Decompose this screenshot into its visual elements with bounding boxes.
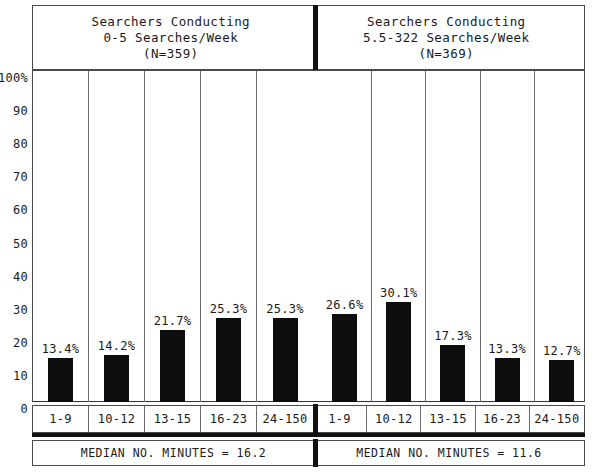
y-axis-tick-90: 90: [13, 105, 28, 117]
panel-header-left: Searchers Conducting 0-5 Searches/Week (…: [33, 6, 309, 69]
grouped-bar-chart: Searchers Conducting 0-5 Searches/Week (…: [0, 0, 605, 472]
category-label-13-15: 13-15: [421, 406, 475, 432]
bar-value-label: 30.1%: [380, 287, 418, 299]
bar-value-label: 17.3%: [434, 330, 472, 342]
category-label-16-23: 16-23: [201, 406, 257, 432]
bar-value-label: 13.3%: [488, 343, 526, 355]
bar-value-label: 26.6%: [326, 299, 364, 311]
y-axis-tick-50: 50: [13, 238, 28, 250]
bar: 13.3%: [495, 358, 520, 402]
bar-column: 13.4%: [33, 71, 89, 402]
category-label-24-150: 24-150: [530, 406, 584, 432]
axis-baseline-rule: [32, 433, 585, 437]
category-label-10-12: 10-12: [89, 406, 145, 432]
bar-column: 25.3%: [201, 71, 257, 402]
median-footer-right: MEDIAN NO. MINUTES = 11.6: [314, 441, 584, 465]
y-axis-tick-80: 80: [13, 138, 28, 150]
category-label-13-15: 13-15: [145, 406, 201, 432]
y-axis-tick-0: 0: [20, 403, 28, 415]
panel-header-right-sample-size: (N=369): [419, 46, 474, 62]
y-axis-tick-40: 40: [13, 271, 28, 283]
bar-column: 13.3%: [481, 71, 535, 402]
bar-panel-left: 13.4%14.2%21.7%25.3%25.3%: [33, 71, 313, 402]
category-label-16-23: 16-23: [476, 406, 530, 432]
bar: 21.7%: [160, 330, 185, 402]
y-axis-tick-20: 20: [13, 337, 28, 349]
y-axis-tick-100: 100%: [0, 72, 28, 84]
panel-headers: Searchers Conducting 0-5 Searches/Week (…: [32, 5, 585, 70]
bar-value-label: 21.7%: [154, 315, 192, 327]
median-footer-divider: [313, 439, 318, 467]
y-axis-tick-30: 30: [13, 304, 28, 316]
bar-value-label: 14.2%: [98, 340, 136, 352]
panel-header-right: Searchers Conducting 5.5-322 Searches/We…: [309, 6, 585, 69]
bar-column: 30.1%: [372, 71, 426, 402]
y-axis-tick-70: 70: [13, 171, 28, 183]
median-footer-left: MEDIAN NO. MINUTES = 16.2: [33, 441, 314, 465]
panel-header-left-sample-size: (N=359): [143, 46, 198, 62]
category-axis-divider: [313, 404, 318, 434]
y-axis-tick-10: 10: [13, 370, 28, 382]
bar-column: 12.7%: [535, 71, 589, 402]
bar: 13.4%: [48, 358, 73, 402]
bar-column: 21.7%: [145, 71, 201, 402]
bar-column: 25.3%: [257, 71, 313, 402]
bar-value-label: 25.3%: [210, 303, 248, 315]
bar: 12.7%: [549, 360, 574, 402]
category-axis: 1-910-1213-1516-2324-150 1-910-1213-1516…: [32, 405, 585, 433]
category-label-1-9: 1-9: [33, 406, 89, 432]
y-axis-tick-60: 60: [13, 204, 28, 216]
panel-header-left-line1: Searchers Conducting: [91, 14, 250, 30]
category-label-24-150: 24-150: [257, 406, 313, 432]
bar: 17.3%: [440, 345, 465, 402]
panel-header-left-line2: 0-5 Searches/Week: [103, 30, 238, 46]
category-axis-right: 1-910-1213-1516-2324-150: [313, 406, 584, 432]
bar-panel-right: 26.6%30.1%17.3%13.3%12.7%: [318, 71, 589, 402]
header-panel-divider: [313, 5, 318, 71]
bar: 30.1%: [386, 302, 411, 402]
y-axis-labels: 100%9080706050403020100: [0, 70, 30, 402]
bar-value-label: 12.7%: [543, 345, 581, 357]
median-footer: MEDIAN NO. MINUTES = 16.2 MEDIAN NO. MIN…: [32, 440, 585, 466]
bar: 26.6%: [332, 314, 357, 402]
bar: 25.3%: [273, 318, 298, 402]
panel-header-right-line1: Searchers Conducting: [367, 14, 526, 30]
bar: 25.3%: [216, 318, 241, 402]
bar-column: 14.2%: [89, 71, 145, 402]
bar-column: 26.6%: [318, 71, 372, 402]
bar: 14.2%: [104, 355, 129, 402]
bar-value-label: 13.4%: [42, 343, 80, 355]
bar-column: 17.3%: [426, 71, 480, 402]
panel-header-right-line2: 5.5-322 Searches/Week: [363, 30, 529, 46]
category-axis-left: 1-910-1213-1516-2324-150: [33, 406, 313, 432]
plot-panels: 13.4%14.2%21.7%25.3%25.3% 26.6%30.1%17.3…: [33, 71, 584, 402]
category-label-1-9: 1-9: [313, 406, 367, 432]
bar-value-label: 25.3%: [266, 303, 304, 315]
category-label-10-12: 10-12: [367, 406, 421, 432]
